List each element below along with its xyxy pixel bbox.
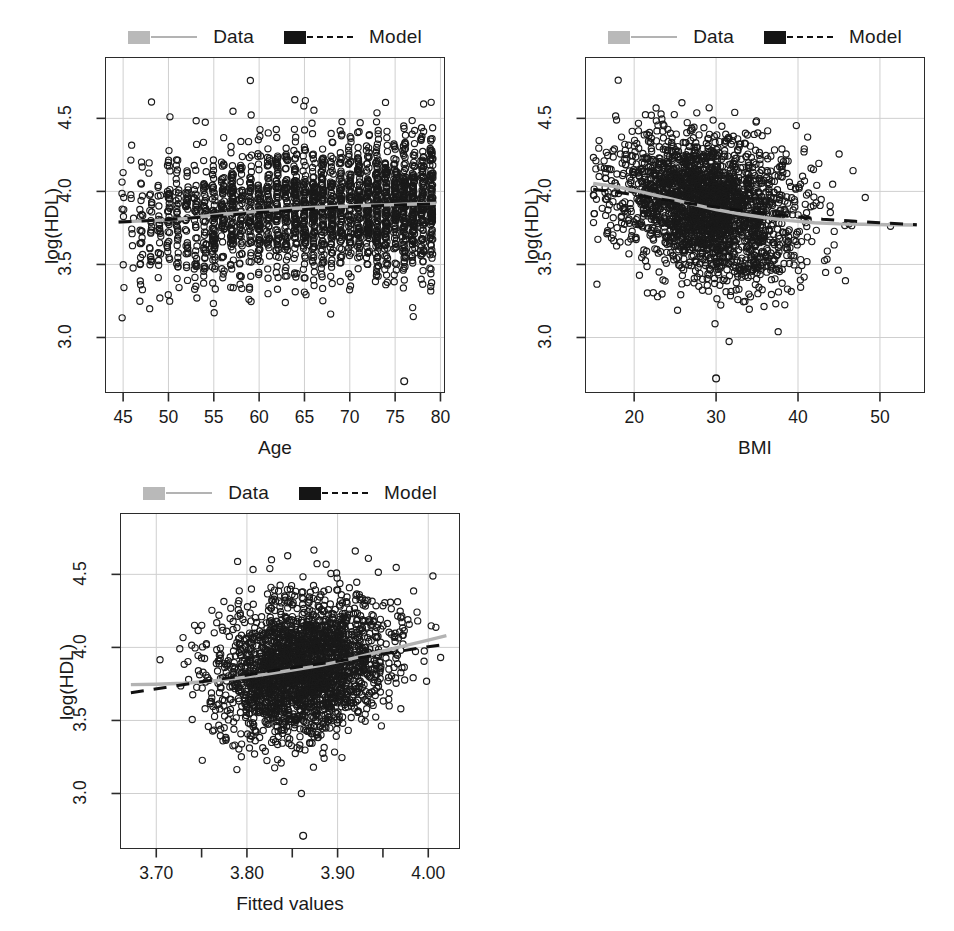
legend-model-swatch-icon xyxy=(764,31,786,44)
legend-bmi: Data Model xyxy=(585,24,925,50)
legend-model-label: Model xyxy=(369,26,422,48)
panel-age-xtick-label: 80 xyxy=(410,407,470,428)
panel-bmi-xtick-label: 50 xyxy=(850,407,910,428)
legend-data-label: Data xyxy=(228,482,269,504)
panel-fitted-xtick-label: 3.90 xyxy=(308,863,368,884)
legend-data-swatch-icon xyxy=(128,31,150,44)
panel-fitted-xtick-label: 4.00 xyxy=(398,863,458,884)
panel-bmi-frame xyxy=(585,57,925,393)
legend-model-swatch-icon xyxy=(284,31,306,44)
figure-canvas: Data Model log(HDL) Age Data Model l xyxy=(0,0,954,931)
legend-age: Data Model xyxy=(105,24,445,50)
legend-entry-data: Data xyxy=(143,482,299,504)
legend-fitted: Data Model xyxy=(120,480,460,506)
panel-age-ytick-label: 3.0 xyxy=(55,315,76,359)
panel-age-ytick-label: 4.0 xyxy=(55,169,76,213)
legend-data-line-icon xyxy=(166,492,212,494)
panel-fitted-xtick-label: 3.80 xyxy=(217,863,277,884)
panel-bmi-ytick-label: 3.5 xyxy=(535,242,556,286)
panel-age-frame xyxy=(105,57,445,393)
panel-fitted-ytick-label: 3.0 xyxy=(70,771,91,815)
legend-data-swatch-icon xyxy=(143,487,165,500)
panel-bmi-xtick-label: 20 xyxy=(604,407,664,428)
panel-fitted-ytick-label: 4.5 xyxy=(70,552,91,596)
legend-model-label: Model xyxy=(849,26,902,48)
panel-fitted-frame xyxy=(120,513,460,849)
legend-model-swatch-icon xyxy=(299,487,321,500)
panel-bmi-xtick-label: 30 xyxy=(686,407,746,428)
panel-fitted-ytick-label: 4.0 xyxy=(70,625,91,669)
legend-entry-data: Data xyxy=(608,26,764,48)
panel-age-ytick-label: 3.5 xyxy=(55,242,76,286)
legend-data-line-icon xyxy=(631,36,677,38)
legend-model-line-icon xyxy=(787,36,833,38)
legend-entry-model: Model xyxy=(299,482,437,504)
legend-entry-model: Model xyxy=(284,26,422,48)
panel-fitted-ytick-label: 3.5 xyxy=(70,698,91,742)
panel-bmi-ytick-label: 4.0 xyxy=(535,169,556,213)
panel-age-ytick-label: 4.5 xyxy=(55,96,76,140)
panel-bmi-ytick-label: 4.5 xyxy=(535,96,556,140)
panel-fitted-xtick-label: 3.70 xyxy=(126,863,186,884)
legend-entry-data: Data xyxy=(128,26,284,48)
legend-data-swatch-icon xyxy=(608,31,630,44)
panel-bmi-ytick-label: 3.0 xyxy=(535,315,556,359)
panel-bmi-xtick-label: 40 xyxy=(768,407,828,428)
legend-model-line-icon xyxy=(322,492,368,494)
legend-entry-model: Model xyxy=(764,26,902,48)
legend-model-label: Model xyxy=(384,482,437,504)
legend-data-label: Data xyxy=(213,26,254,48)
legend-data-line-icon xyxy=(151,36,197,38)
panel-bmi-xlabel: BMI xyxy=(585,437,925,459)
panel-fitted-xlabel: Fitted values xyxy=(120,893,460,915)
panel-age-xlabel: Age xyxy=(105,437,445,459)
legend-data-label: Data xyxy=(693,26,734,48)
legend-model-line-icon xyxy=(307,36,353,38)
